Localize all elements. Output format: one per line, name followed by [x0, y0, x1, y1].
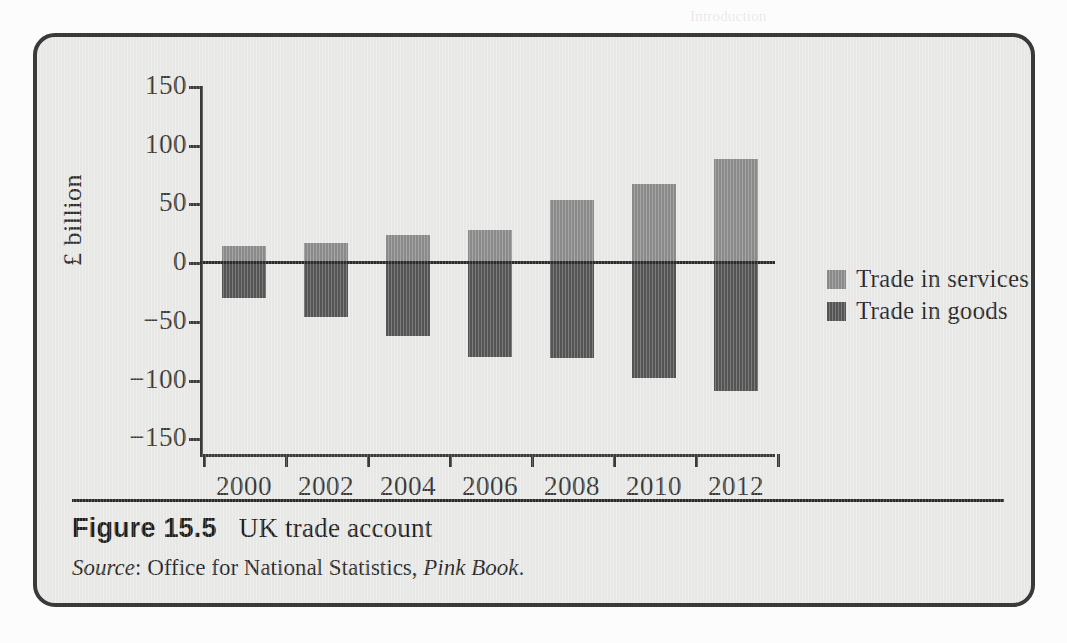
y-tick-label: 50: [109, 187, 187, 218]
figure-title: UK trade account: [239, 513, 433, 543]
chart-legend: Trade in servicesTrade in goods: [827, 265, 1029, 329]
caption-divider: [72, 499, 1004, 502]
background-text-line: Introduction: [690, 8, 767, 25]
source-publication: Pink Book: [423, 555, 518, 580]
legend-item: Trade in goods: [827, 297, 1029, 325]
bar-2000-goods: [222, 262, 266, 298]
chart-plot-area: £ billion 150100500−50−100−150 200020022…: [37, 37, 1035, 487]
source-label: Source: [72, 555, 135, 580]
y-axis-tick-labels: 150100500−50−100−150: [109, 37, 187, 487]
bar-2004-goods: [386, 262, 430, 336]
bar-2008-services: [550, 200, 594, 262]
x-tick-mark: [285, 454, 288, 467]
y-axis-title: £ billion: [58, 140, 88, 300]
bar-2010-goods: [632, 262, 676, 378]
x-tick-mark: [777, 454, 780, 467]
y-tick-label: −100: [109, 364, 187, 395]
y-tick-label: 100: [109, 129, 187, 160]
bar-2008-goods: [550, 262, 594, 358]
x-tick-mark: [449, 454, 452, 467]
bar-2002-services: [304, 243, 348, 262]
bar-2002-goods: [304, 262, 348, 317]
y-tick-label: 0: [109, 246, 187, 277]
bar-2012-services: [714, 159, 758, 262]
x-tick-mark: [531, 454, 534, 467]
bar-2012-goods: [714, 262, 758, 391]
legend-label: Trade in services: [856, 265, 1029, 293]
bar-2000-services: [222, 246, 266, 262]
bar-2004-services: [386, 235, 430, 262]
x-tick-mark: [695, 454, 698, 467]
zero-baseline: [200, 261, 775, 264]
legend-swatch-icon: [827, 302, 846, 321]
figure-page: IntroductionTrade in goods and services …: [0, 0, 1067, 643]
x-tick-mark: [367, 454, 370, 467]
legend-label: Trade in goods: [856, 297, 1008, 325]
x-tick-label: 2012: [681, 471, 791, 502]
figure-number: Figure 15.5: [72, 513, 217, 543]
bar-2006-services: [468, 230, 512, 262]
bar-2010-services: [632, 184, 676, 262]
source-period: .: [518, 555, 524, 580]
legend-item: Trade in services: [827, 265, 1029, 293]
source-organisation: Office for National Statistics,: [147, 555, 423, 580]
y-tick-label: 150: [109, 70, 187, 101]
x-tick-mark: [613, 454, 616, 467]
y-axis-line: [200, 86, 203, 456]
y-tick-label: −150: [109, 422, 187, 453]
y-tick-label: −50: [109, 305, 187, 336]
legend-swatch-icon: [827, 270, 846, 289]
x-tick-mark: [203, 454, 206, 467]
figure-caption: Figure 15.5UK trade account: [72, 513, 432, 544]
source-separator: :: [135, 555, 147, 580]
figure-panel: £ billion 150100500−50−100−150 200020022…: [33, 33, 1035, 607]
figure-source: Source: Office for National Statistics, …: [72, 555, 524, 581]
bar-2006-goods: [468, 262, 512, 357]
